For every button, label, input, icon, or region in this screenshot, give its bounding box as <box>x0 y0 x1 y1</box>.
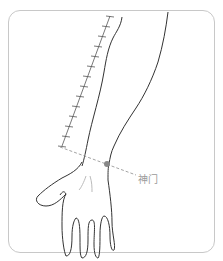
arm-right-contour <box>109 12 168 164</box>
wrist-crease-dashed-line <box>60 147 136 175</box>
acupoint-marker <box>104 161 110 167</box>
hand-outline <box>36 162 114 258</box>
arm-left-contour <box>82 17 122 166</box>
measurement-ruler <box>58 16 114 147</box>
palm-line <box>90 176 92 192</box>
palm-line <box>79 176 86 190</box>
acupoint-label: 神门 <box>138 175 158 185</box>
forearm-hand-illustration <box>0 0 223 261</box>
